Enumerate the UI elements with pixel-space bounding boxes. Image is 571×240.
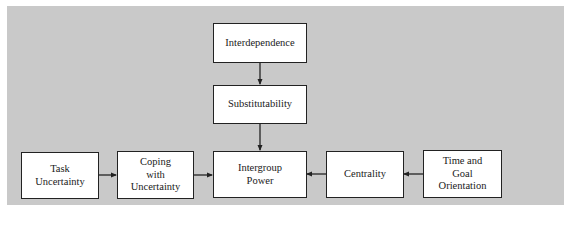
- node-coping-with-uncertainty: Coping with Uncertainty: [117, 151, 194, 199]
- node-label: Time and Goal Orientation: [439, 155, 487, 193]
- node-substitutability: Substitutability: [213, 85, 307, 124]
- node-label: Intergroup Power: [238, 162, 282, 187]
- node-time-and-goal-orientation: Time and Goal Orientation: [423, 150, 502, 198]
- node-label: Interdependence: [225, 37, 294, 50]
- node-label: Task Uncertainty: [35, 163, 85, 188]
- node-intergroup-power: Intergroup Power: [213, 151, 307, 198]
- node-label: Centrality: [344, 168, 386, 181]
- node-interdependence: Interdependence: [213, 23, 307, 63]
- node-centrality: Centrality: [326, 151, 404, 198]
- node-task-uncertainty: Task Uncertainty: [21, 152, 99, 199]
- node-label: Coping with Uncertainty: [131, 156, 181, 194]
- node-label: Substitutability: [228, 98, 292, 111]
